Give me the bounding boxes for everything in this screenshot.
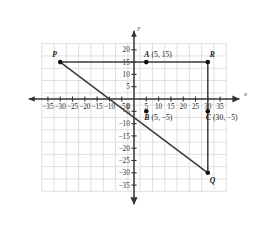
y-tick-label: 20 (123, 46, 131, 54)
point-label-b: B(5, −5) (143, 113, 172, 122)
coordinate-plane-figure: −35−30−25−20−15−10−505101520253035201510… (0, 0, 269, 230)
point-label-coords: (5, −5) (152, 113, 173, 122)
x-tick-label: 35 (217, 103, 225, 111)
x-axis-label: x (243, 91, 247, 97)
x-tick-label: −30 (55, 103, 67, 111)
point-label-p: P (52, 50, 57, 59)
point-label-c: C(30, −5) (206, 113, 238, 122)
data-point-p (58, 60, 63, 65)
point-label-letter: P (52, 50, 57, 59)
point-label-a: A(5, 15) (143, 50, 172, 59)
y-tick-label: −15 (119, 133, 131, 141)
x-tick-label: −15 (91, 103, 103, 111)
x-tick-label: 20 (180, 103, 188, 111)
x-tick-label: −35 (42, 103, 54, 111)
x-tick-label: 15 (167, 103, 175, 111)
x-tick-label: −20 (79, 103, 91, 111)
data-point-q (206, 171, 211, 176)
x-tick-label: −25 (67, 103, 79, 111)
x-tick-label: 25 (192, 103, 200, 111)
point-label-letter: Q (210, 176, 216, 185)
data-point-a (144, 60, 149, 65)
x-tick-label: 10 (155, 103, 163, 111)
point-label-letter: R (209, 50, 215, 59)
point-label-q: Q (210, 176, 216, 185)
y-tick-label: 5 (126, 83, 130, 91)
y-tick-label: −30 (119, 169, 131, 177)
point-label-r: R (209, 50, 215, 59)
y-tick-label: −20 (119, 145, 131, 153)
point-label-coords: (5, 15) (152, 50, 173, 59)
y-tick-label: −35 (119, 182, 131, 190)
point-label-letter: A (143, 50, 149, 59)
y-tick-label: 10 (123, 71, 131, 79)
coordinate-graph: −35−30−25−20−15−10−505101520253035201510… (0, 0, 269, 230)
y-tick-label: −25 (119, 157, 131, 165)
point-label-coords: (30, −5) (213, 113, 238, 122)
data-point-r (206, 60, 211, 65)
point-label-letter: B (143, 113, 149, 122)
y-axis-label: y (137, 25, 141, 31)
x-tick-label: −10 (104, 103, 116, 111)
y-tick-label: −10 (119, 120, 131, 128)
